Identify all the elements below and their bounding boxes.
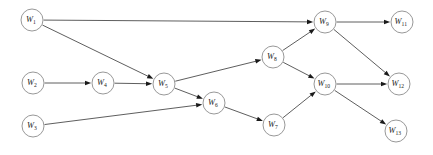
edge-line — [44, 20, 309, 22]
graph-node-w8[interactable]: W8 — [262, 46, 284, 68]
graph-edge-w9-to-w11 — [337, 20, 391, 25]
nodes-layer: W1W2W3W4W5W6W7W8W9W10W11W12W13 — [21, 9, 413, 142]
edge-line — [175, 61, 256, 81]
arrowhead-icon — [147, 74, 154, 79]
node-label-subscript: 9 — [326, 21, 329, 27]
graph-edge-w8-to-w10 — [283, 62, 314, 78]
arrowhead-icon — [380, 119, 386, 124]
node-label-subscript: 4 — [104, 82, 107, 88]
arrowhead-icon — [309, 29, 315, 34]
node-label-subscript: 6 — [215, 102, 218, 108]
graph-edge-w10-to-w12 — [337, 82, 388, 87]
edge-line — [334, 29, 386, 73]
edge-line — [283, 31, 311, 50]
directed-graph-figure: W1W2W3W4W5W6W7W8W9W10W11W12W13 — [0, 0, 433, 155]
graph-node-w6[interactable]: W6 — [203, 92, 225, 114]
graph-edge-w5-to-w6 — [175, 88, 203, 99]
node-label-subscript: 1 — [33, 19, 36, 25]
graph-node-w1[interactable]: W1 — [21, 9, 43, 31]
arrowhead-icon — [256, 117, 263, 121]
graph-node-w12[interactable]: W12 — [388, 73, 410, 95]
graph-edge-w4-to-w5 — [115, 81, 153, 86]
graph-node-w2[interactable]: W2 — [22, 72, 44, 94]
node-label-subscript: 12 — [398, 83, 404, 89]
graph-edge-w5-to-w8 — [175, 59, 261, 81]
node-label-subscript: 2 — [34, 82, 37, 88]
node-label-subscript: 3 — [34, 125, 37, 131]
node-label-subscript: 5 — [165, 83, 168, 89]
graph-node-w13[interactable]: W13 — [385, 120, 407, 142]
node-label-subscript: 7 — [275, 124, 278, 130]
graph-node-w3[interactable]: W3 — [22, 115, 44, 137]
graph-node-w7[interactable]: W7 — [263, 114, 285, 136]
arrowhead-icon — [146, 81, 152, 86]
graph-node-w5[interactable]: W5 — [153, 73, 175, 95]
edge-line — [283, 62, 310, 76]
graph-node-w4[interactable]: W4 — [92, 72, 114, 94]
node-label-subscript: 8 — [274, 56, 277, 62]
arrowhead-icon — [381, 82, 387, 87]
node-label-subscript: 13 — [395, 130, 401, 136]
arrowhead-icon — [85, 81, 91, 86]
edge-line — [175, 88, 198, 97]
graph-node-w11[interactable]: W11 — [391, 11, 413, 33]
arrowhead-icon — [308, 74, 315, 79]
edge-line — [335, 90, 382, 121]
arrowhead-icon — [384, 20, 390, 25]
node-label-subscript: 10 — [324, 83, 330, 89]
edge-line — [42, 25, 148, 77]
arrowhead-icon — [307, 20, 313, 25]
graph-edge-w3-to-w6 — [45, 103, 203, 125]
edge-line — [115, 83, 148, 84]
graph-edge-w1-to-w5 — [42, 25, 153, 79]
graph-edge-w8-to-w9 — [283, 29, 316, 51]
graph-node-w9[interactable]: W9 — [314, 11, 336, 33]
edge-line — [283, 95, 312, 118]
edge-line — [225, 107, 258, 119]
edge-line — [45, 105, 198, 124]
graph-edge-w10-to-w13 — [335, 90, 386, 124]
graph-node-w10[interactable]: W10 — [314, 73, 336, 95]
arrowhead-icon — [196, 103, 202, 108]
graph-canvas: W1W2W3W4W5W6W7W8W9W10W11W12W13 — [0, 0, 433, 155]
node-label-subscript: 11 — [402, 21, 408, 27]
graph-edge-w1-to-w9 — [44, 20, 314, 25]
graph-edge-w6-to-w7 — [225, 107, 263, 121]
graph-edge-w9-to-w12 — [334, 29, 390, 76]
graph-edge-w7-to-w10 — [283, 91, 316, 117]
arrowhead-icon — [255, 59, 262, 63]
graph-edge-w2-to-w4 — [45, 81, 92, 86]
arrowhead-icon — [196, 94, 203, 98]
